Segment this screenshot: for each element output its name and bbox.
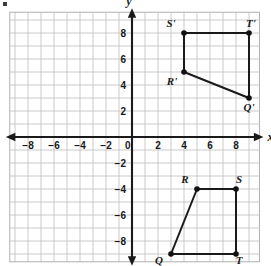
y-tick-label: 8: [120, 28, 126, 39]
point-labels: R'S'T'Q'QRST: [155, 17, 256, 266]
vertex-label: R': [166, 75, 177, 87]
x-axis-arrow-left: [6, 133, 16, 141]
vertex-label: S: [236, 173, 242, 185]
vertex-label: Q: [155, 254, 163, 266]
graph-canvas: −8−6−4−2024688642−2−4−6−8xy R'S'T'Q'QRST: [0, 0, 271, 266]
y-tick-label: 2: [120, 106, 126, 117]
x-tick-label: −4: [74, 140, 86, 151]
x-tick-label: 6: [207, 140, 213, 151]
x-tick-label: 2: [155, 140, 161, 151]
x-axis-name: x: [266, 130, 271, 144]
vertex-label: R: [180, 173, 188, 185]
x-tick-label: −6: [48, 140, 60, 151]
vertex-point: [168, 251, 174, 257]
y-axis-arrow-down: [128, 256, 136, 266]
vertex-point: [233, 186, 239, 192]
y-tick-label: −6: [115, 210, 127, 221]
vertex-point: [194, 186, 200, 192]
x-tick-label: 4: [181, 140, 187, 151]
coordinate-plane: −8−6−4−2024688642−2−4−6−8xy R'S'T'Q'QRST: [0, 0, 271, 266]
y-tick-label: 6: [120, 54, 126, 65]
tick-labels: −8−6−4−2024688642−2−4−6−8xy: [22, 0, 271, 247]
vertex-label: T': [246, 17, 256, 29]
x-tick-label: 8: [233, 140, 239, 151]
vertex-label: T: [236, 254, 244, 266]
axes: [6, 8, 264, 266]
x-tick-label: −2: [100, 140, 112, 151]
y-axis-arrow-up: [128, 8, 136, 18]
origin-label: 0: [125, 140, 131, 151]
y-tick-label: −4: [115, 184, 127, 195]
vertex-label: Q': [244, 101, 255, 113]
vertex-point: [181, 69, 187, 75]
x-tick-label: −8: [22, 140, 34, 151]
vertex-point: [181, 30, 187, 36]
y-tick-label: −2: [115, 158, 127, 169]
y-tick-label: −8: [115, 236, 127, 247]
y-axis-name: y: [124, 0, 132, 8]
vertex-point: [246, 95, 252, 101]
x-axis-arrow-right: [254, 133, 264, 141]
y-tick-label: 4: [120, 80, 126, 91]
vertex-point: [246, 30, 252, 36]
vertex-label: S': [166, 17, 175, 29]
